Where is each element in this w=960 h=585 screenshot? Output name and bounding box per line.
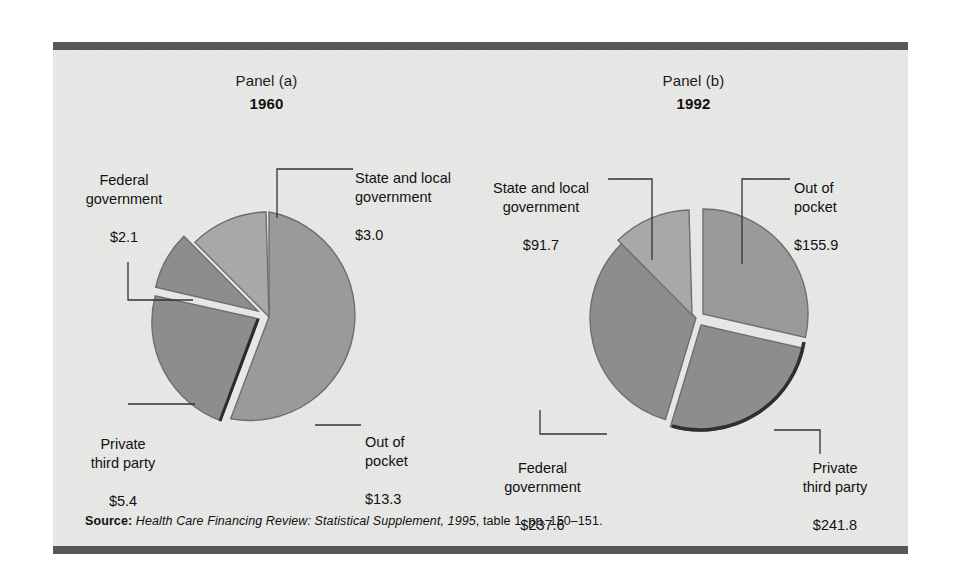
callout-federal-government-b-name: Federal government xyxy=(470,459,615,497)
callout-out-of-pocket-b-value: $155.9 xyxy=(794,236,904,255)
slice-private-third-party-b-path xyxy=(671,325,804,431)
figure-panel: Panel (a) 1960 xyxy=(53,42,908,554)
source-rest: , table 1, pp. 150–151. xyxy=(476,514,603,528)
source-title: Health Care Financing Review: Statistica… xyxy=(136,514,476,528)
callout-state-and-local-a-value: $3.0 xyxy=(355,226,485,245)
source-note: Source: Health Care Financing Review: St… xyxy=(85,514,875,528)
panel-b: Panel (b) 1992 xyxy=(480,42,907,554)
callout-out-of-pocket-b: Out of pocket $155.9 xyxy=(794,160,904,274)
callout-private-third-party-a: Private third party $5.4 xyxy=(58,416,188,530)
callout-state-and-local-b-value: $91.7 xyxy=(475,236,607,255)
callout-private-third-party-a-name: Private third party xyxy=(58,435,188,473)
callout-federal-government-a-value: $2.1 xyxy=(53,228,195,247)
callout-out-of-pocket-b-name: Out of pocket xyxy=(794,179,904,217)
slice-out-of-pocket-b xyxy=(703,209,808,337)
callout-state-and-local-b: State and local government $91.7 xyxy=(475,160,607,274)
callout-federal-government-a-name: Federal government xyxy=(53,171,195,209)
slice-out-of-pocket-b-path xyxy=(703,209,808,337)
callout-private-third-party-b: Private third party $241.8 xyxy=(776,440,894,554)
callout-private-third-party-a-value: $5.4 xyxy=(58,492,188,511)
source-label: Source: xyxy=(85,514,132,528)
callout-state-and-local-b-name: State and local government xyxy=(475,179,607,217)
callout-federal-government-a: Federal government $2.1 xyxy=(53,152,195,266)
leader-federal-government-b xyxy=(540,410,607,434)
callout-private-third-party-b-name: Private third party xyxy=(776,459,894,497)
callout-out-of-pocket-a-name: Out of pocket xyxy=(365,433,475,471)
callout-federal-government-b: Federal government $237.6 xyxy=(470,440,615,554)
callout-state-and-local-a: State and local government $3.0 xyxy=(355,150,485,264)
leader-state-and-local-a xyxy=(277,169,353,218)
panel-a: Panel (a) 1960 xyxy=(53,42,480,554)
slice-private-third-party-b xyxy=(671,325,804,431)
callout-out-of-pocket-a: Out of pocket $13.3 xyxy=(365,414,475,528)
callout-state-and-local-a-name: State and local government xyxy=(355,169,485,207)
callout-out-of-pocket-a-value: $13.3 xyxy=(365,490,475,509)
